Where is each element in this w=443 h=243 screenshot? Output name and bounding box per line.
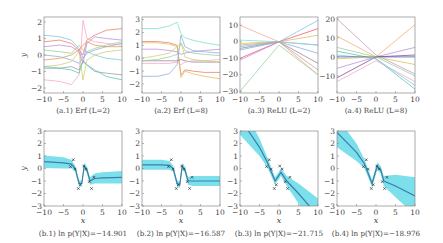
data-point-marker [370, 187, 373, 190]
y-tick-label: −3 [31, 202, 42, 211]
panel-b1: −10−50510−3−2−10123yx(b.1) ln p(Y|X)=−14… [19, 127, 127, 238]
confidence-band [337, 117, 415, 215]
subfigure-caption: (a.4) ReLU (L=8) [345, 106, 408, 115]
y-tick-label: 1 [37, 152, 42, 161]
series-line [240, 29, 318, 59]
y-tick-label: 3 [135, 127, 140, 136]
y-tick-label: −3 [227, 202, 238, 211]
y-tick-label: 3 [135, 15, 140, 24]
y-tick-label: 0 [330, 53, 335, 62]
axes-frame [240, 17, 318, 93]
x-tick-label: 5 [198, 95, 203, 104]
y-tick-label: −30 [222, 87, 238, 96]
y-tick-label: −3 [129, 202, 140, 211]
x-tick-label: 10 [410, 95, 420, 104]
subfigure-caption: (b.1) ln p(Y|X)=−14.901 [39, 229, 127, 238]
x-tick-label: −5 [351, 95, 362, 104]
subfigure-caption: (b.4) ln p(Y|X)=−18.976 [332, 229, 421, 238]
x-tick-label: 5 [393, 95, 398, 104]
plot-area [337, 117, 415, 215]
y-tick-label: 20 [325, 15, 335, 24]
y-tick-label: −3 [324, 202, 335, 211]
data-point-marker [365, 158, 368, 161]
data-point-marker [273, 187, 276, 190]
x-tick-label: 0 [277, 95, 282, 104]
x-tick-label: 5 [100, 95, 105, 104]
data-point-marker [90, 187, 93, 190]
y-tick-label: 3 [330, 127, 335, 136]
y-tick-label: 2 [37, 18, 42, 27]
panel-b3: −10−50510−3−2−10123x(b.3) ln p(Y|X)=−21.… [227, 102, 324, 238]
x-tick-label: −5 [156, 208, 167, 217]
y-tick-label: 0 [233, 164, 238, 173]
subfigure-caption: (a.1) Erf (L=2) [56, 106, 110, 115]
data-point-marker [170, 158, 173, 161]
x-tick-label: −5 [58, 208, 69, 217]
data-point-marker [275, 183, 278, 186]
x-tick-label: −10 [134, 95, 150, 104]
y-tick-label: 0 [233, 37, 238, 46]
y-tick-label: 1 [135, 152, 140, 161]
y-tick-label: −2 [129, 189, 140, 198]
x-tick-label: 10 [215, 208, 225, 217]
plot-area [44, 155, 122, 189]
data-point-marker [278, 165, 281, 168]
subfigure-caption: (a.2) Erf (L=8) [154, 106, 208, 115]
y-tick-label: −2 [31, 189, 42, 198]
y-axis-label: y [19, 166, 28, 172]
y-tick-label: 2 [233, 139, 238, 148]
subfigure-caption: (b.2) ln p(Y|X)=−16.587 [137, 229, 226, 238]
y-tick-label: 3 [233, 127, 238, 136]
y-tick-label: −2 [129, 80, 140, 89]
data-point-marker [188, 187, 191, 190]
x-tick-label: 5 [296, 95, 301, 104]
plot-area [337, 19, 415, 89]
y-tick-label: −1 [227, 177, 238, 186]
y-tick-label: 2 [135, 28, 140, 37]
series-line [337, 19, 415, 74]
y-tick-label: 3 [37, 127, 42, 136]
x-axis-label: x [179, 216, 184, 225]
x-tick-label: 0 [81, 95, 86, 104]
y-tick-label: −1 [324, 177, 335, 186]
plot-area [240, 20, 318, 91]
series-line [142, 42, 220, 76]
x-tick-label: 5 [296, 208, 301, 217]
plot-area [142, 22, 220, 79]
x-axis-label: x [277, 216, 282, 225]
y-tick-label: −1 [129, 177, 140, 186]
subfigure-caption: (a.3) ReLU (L=2) [248, 106, 311, 115]
y-tick-label: 0 [330, 164, 335, 173]
y-axis-label: y [19, 52, 28, 58]
y-tick-label: 10 [228, 21, 238, 30]
panel-b4: −10−50510−3−2−10123x(b.4) ln p(Y|X)=−18.… [324, 117, 421, 238]
x-tick-label: 5 [198, 208, 203, 217]
y-tick-label: 1 [135, 41, 140, 50]
data-point-marker [77, 187, 80, 190]
series-line [240, 45, 318, 91]
y-tick-label: 0 [135, 164, 140, 173]
x-tick-label: −10 [36, 95, 52, 104]
y-tick-label: −20 [222, 70, 238, 79]
x-tick-label: −5 [58, 95, 69, 104]
x-tick-label: 10 [117, 95, 127, 104]
y-tick-label: 1 [330, 152, 335, 161]
y-tick-label: −1 [129, 67, 140, 76]
plot-area [44, 20, 122, 84]
y-tick-label: 10 [325, 34, 335, 43]
x-tick-label: 10 [313, 208, 323, 217]
x-tick-label: −5 [351, 208, 362, 217]
panel-b2: −10−50510−3−2−10123x(b.2) ln p(Y|X)=−16.… [129, 127, 226, 238]
data-point-marker [268, 158, 271, 161]
x-tick-label: 5 [100, 208, 105, 217]
x-tick-label: −5 [254, 208, 265, 217]
data-point-marker [383, 187, 386, 190]
x-tick-label: −5 [156, 95, 167, 104]
axes-frame [44, 131, 122, 206]
y-tick-label: 0 [37, 164, 42, 173]
panel-a2: −10−50510−2−10123(a.2) Erf (L=8) [129, 15, 225, 115]
y-tick-label: −2 [31, 84, 42, 93]
series-line [240, 42, 318, 54]
y-tick-label: 0 [37, 51, 42, 60]
x-tick-label: 5 [393, 208, 398, 217]
